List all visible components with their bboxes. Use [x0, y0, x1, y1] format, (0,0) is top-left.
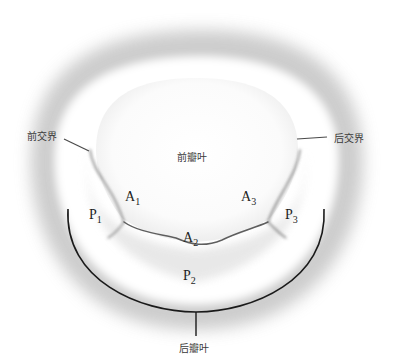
- valve-illustration: [0, 0, 393, 364]
- mitral-valve-diagram: 前交界 后交界 前瓣叶 后瓣叶 A1 A2 A3 P1 P2 P3: [0, 0, 393, 364]
- posterior-leaflet-label: 后瓣叶: [179, 340, 209, 355]
- segment-a1-label: A1: [125, 189, 140, 207]
- anterior-leaflet-label: 前瓣叶: [177, 149, 207, 164]
- segment-p1-label: P1: [89, 207, 102, 225]
- segment-p2-label: P2: [183, 268, 196, 286]
- segment-p3-label: P3: [285, 207, 298, 225]
- anterior-commissure-label: 前交界: [27, 128, 57, 143]
- segment-a2-label: A2: [183, 230, 198, 248]
- segment-a3-label: A3: [241, 189, 256, 207]
- posterior-commissure-label: 后交界: [334, 130, 364, 145]
